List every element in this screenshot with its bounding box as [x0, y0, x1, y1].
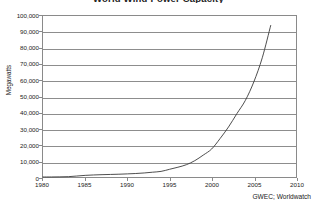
x-tick-label: 2005	[240, 181, 270, 189]
x-tick-mark	[297, 178, 298, 181]
x-tick-label: 1985	[70, 181, 100, 189]
x-tick-mark	[170, 178, 171, 181]
wind-capacity-chart: World Wind Power Capacity Megawatts 010,…	[0, 0, 317, 211]
x-tick-label: 2000	[197, 181, 227, 189]
x-tick-label: 1995	[155, 181, 185, 189]
source-note: GWEC; Worldwatch	[0, 193, 311, 200]
x-tick-label: 1990	[112, 181, 142, 189]
x-tick-mark	[85, 178, 86, 181]
x-tick-mark	[42, 178, 43, 181]
x-axis-tick-labels: 1980198519901995200020052010	[0, 0, 317, 211]
x-tick-mark	[255, 178, 256, 181]
x-tick-mark	[127, 178, 128, 181]
x-tick-label: 2010	[282, 181, 312, 189]
x-tick-mark	[212, 178, 213, 181]
x-tick-label: 1980	[27, 181, 57, 189]
